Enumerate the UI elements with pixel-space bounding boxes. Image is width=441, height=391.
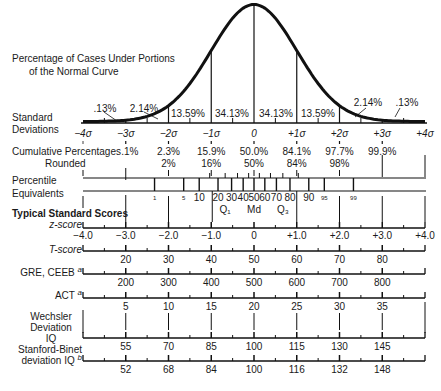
- sd-tick-label-8: +4σ: [410, 128, 440, 139]
- wechsler-label-line3: IQ: [20, 333, 82, 344]
- t-score-value-3: 50: [239, 254, 269, 265]
- cum-pct-rounded-0: 2%: [154, 158, 184, 169]
- stanford-binet-text: deviation IQ: [21, 355, 74, 366]
- curve-pct-6: 2.14%: [348, 97, 388, 108]
- gre-ceeb-value-4: 600: [282, 277, 312, 288]
- gre-ceeb-value-2: 400: [196, 277, 226, 288]
- act-footnote: a: [78, 288, 82, 297]
- t-score-value-5: 70: [325, 254, 355, 265]
- wechsler-value-2: 85: [196, 341, 226, 352]
- cum-pct-rounded-3: 84%: [282, 158, 312, 169]
- stanford-binet-value-6: 148: [367, 364, 397, 375]
- cum-pct-value-6: 99.9%: [364, 146, 400, 157]
- z-score-value-4: 0: [237, 230, 271, 241]
- wechsler-label-line2: Deviation: [20, 322, 82, 333]
- curve-pct-0: .13%: [88, 103, 122, 114]
- cum-pct-label: Cumulative Percentages: [12, 146, 121, 157]
- wechsler-label-line1: Wechsler: [20, 311, 82, 322]
- wechsler-value-4: 115: [282, 341, 312, 352]
- t-score-value-4: 60: [282, 254, 312, 265]
- stanford-binet-value-2: 84: [196, 364, 226, 375]
- stanford-binet-label-line2: deviation IQ b: [2, 355, 82, 366]
- percentile-value-0: 1: [145, 193, 165, 204]
- cum-pct-rounded-2: 50%: [239, 158, 269, 169]
- gre-ceeb-value-5: 700: [325, 277, 355, 288]
- stanford-binet-value-1: 68: [154, 364, 184, 375]
- z-score-value-1: −3.0: [109, 230, 143, 241]
- stanford-binet-label-line1: Stanford-Binet: [2, 344, 82, 355]
- sd-tick-label-4: 0: [239, 128, 269, 139]
- stanford-binet-value-4: 116: [282, 364, 312, 375]
- curve-pct-7: .13%: [392, 97, 422, 108]
- sd-tick-label-1: −3σ: [111, 128, 141, 139]
- z-score-value-7: +3.0: [365, 230, 399, 241]
- curve-pct-4: 34.13%: [255, 108, 297, 119]
- percentile-value-9: 80: [280, 192, 300, 203]
- cum-pct-value-0: .1%: [112, 146, 148, 157]
- t-score-value-6: 80: [367, 254, 397, 265]
- cum-pct-rounded-4: 98%: [325, 158, 355, 169]
- wechsler-value-6: 145: [367, 341, 397, 352]
- cum-pct-value-5: 97.7%: [322, 146, 358, 157]
- cum-pct-value-4: 84.1%: [279, 146, 315, 157]
- gre-ceeb-value-0: 200: [111, 277, 141, 288]
- act-value-5: 30: [325, 301, 355, 312]
- z-score-value-8: +4.0: [408, 230, 441, 241]
- gre-ceeb-text: GRE, CEEB: [20, 267, 74, 278]
- curve-pct-3: 34.13%: [211, 108, 253, 119]
- z-score-value-0: −4.0: [66, 230, 100, 241]
- z-score-value-6: +2.0: [323, 230, 357, 241]
- stanford-binet-value-5: 132: [325, 364, 355, 375]
- t-score-label: T-score: [20, 244, 82, 255]
- cum-pct-value-2: 15.9%: [193, 146, 229, 157]
- gre-ceeb-footnote: a: [78, 265, 82, 274]
- sd-tick-label-3: −1σ: [196, 128, 226, 139]
- act-value-3: 20: [239, 301, 269, 312]
- act-label: ACT a: [20, 290, 82, 301]
- diagram-title-line2: of the Normal Curve: [29, 66, 118, 77]
- stanford-binet-footnote: b: [78, 353, 82, 362]
- sd-tick-label-0: −4σ: [68, 128, 98, 139]
- cum-pct-value-1: 2.3%: [151, 146, 187, 157]
- diagram-title-line1: Percentage of Cases Under Portions: [12, 53, 175, 64]
- z-score-value-5: +1.0: [280, 230, 314, 241]
- leader-line: [395, 108, 400, 117]
- gre-ceeb-value-3: 500: [239, 277, 269, 288]
- t-score-value-2: 40: [196, 254, 226, 265]
- wechsler-value-1: 70: [154, 341, 184, 352]
- sd-tick-label-7: +3σ: [367, 128, 397, 139]
- wechsler-value-0: 55: [111, 341, 141, 352]
- cum-pct-rounded-1: 16%: [196, 158, 226, 169]
- curve-pct-1: 2.14%: [124, 103, 164, 114]
- wechsler-value-3: 100: [239, 341, 269, 352]
- std-dev-label-line1: Standard: [12, 112, 53, 123]
- gre-ceeb-label: GRE, CEEB a: [10, 267, 82, 278]
- gre-ceeb-value-6: 800: [367, 277, 397, 288]
- sd-tick-label-5: +1σ: [282, 128, 312, 139]
- quartile-label-1: Md: [244, 204, 264, 215]
- gre-ceeb-value-1: 300: [154, 277, 184, 288]
- sd-tick-label-6: +2σ: [325, 128, 355, 139]
- z-score-value-3: −1.0: [194, 230, 228, 241]
- quartile-label-2: Q₃: [273, 204, 293, 215]
- act-value-0: 5: [111, 301, 141, 312]
- act-value-1: 10: [154, 301, 184, 312]
- act-value-6: 35: [367, 301, 397, 312]
- typical-scores-heading: Typical Standard Scores: [12, 208, 128, 219]
- percentile-value-12: 99: [343, 193, 363, 204]
- curve-pct-5: 13.59%: [298, 108, 338, 119]
- sd-tick-label-2: −2σ: [154, 128, 184, 139]
- stanford-binet-value-3: 100: [239, 364, 269, 375]
- t-score-value-1: 30: [154, 254, 184, 265]
- percentile-value-11: 95: [314, 193, 334, 204]
- curve-pct-2: 13.59%: [168, 108, 208, 119]
- wechsler-value-5: 130: [325, 341, 355, 352]
- cum-pct-value-3: 50.0%: [236, 146, 272, 157]
- act-value-2: 15: [196, 301, 226, 312]
- act-value-4: 25: [282, 301, 312, 312]
- quartile-label-0: Q₁: [215, 204, 235, 215]
- t-score-value-0: 20: [111, 254, 141, 265]
- stanford-binet-value-0: 52: [111, 364, 141, 375]
- percentile-value-2: 10: [189, 192, 209, 203]
- std-dev-label-line2: Deviations: [12, 124, 59, 135]
